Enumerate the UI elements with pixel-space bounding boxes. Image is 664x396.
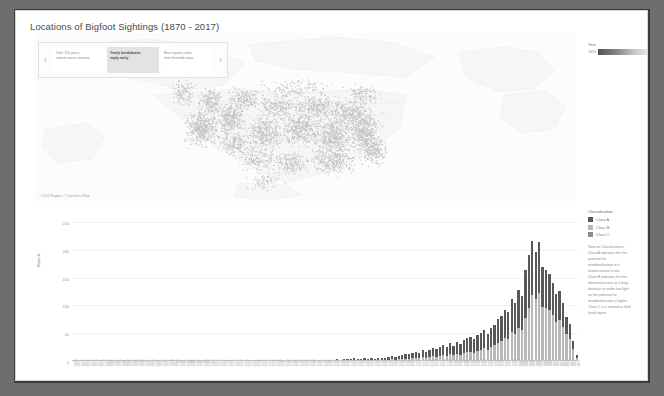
- y-tick-100: 100: [63, 304, 70, 309]
- legend-swatch-class-a: [588, 217, 593, 222]
- year-legend-title: Year: [588, 42, 648, 47]
- page-title: Locations of Bigfoot Sightings (1870 - 2…: [30, 21, 219, 32]
- year-legend-min: 1870: [588, 50, 596, 54]
- classification-note: Note on Classifications:Class A indicate…: [588, 244, 648, 316]
- y-tick-0: 0: [67, 360, 69, 365]
- story-points-navigator[interactable]: ‹ Over 150 years, reports seem common Ye…: [38, 42, 228, 78]
- map-attribution: © 2023 Mapbox © OpenStreetMap: [38, 194, 91, 198]
- dashboard-container: Locations of Bigfoot Sightings (1870 - 2…: [15, 10, 648, 381]
- story-next-button[interactable]: ›: [214, 55, 227, 65]
- legend-item-class-b[interactable]: Class B: [588, 225, 648, 230]
- reports-by-year-chart: Reports 050100150200250 1870187118721873…: [34, 207, 582, 379]
- legend-item-class-c[interactable]: Class C: [588, 232, 648, 237]
- y-tick-150: 150: [63, 276, 70, 281]
- chart-plot-area[interactable]: 050100150200250: [72, 211, 578, 361]
- legend-label-class-c: Class C: [596, 232, 610, 237]
- story-point-2-line2: imply rarity: [110, 56, 156, 61]
- legend-label-class-a: Class A: [596, 217, 609, 222]
- legend-swatch-class-b: [588, 225, 593, 230]
- classification-legend: Classification Class A Class B Class C: [588, 209, 648, 240]
- chart-y-axis-label: Reports: [36, 253, 41, 267]
- story-point-3[interactable]: Best reports come from forested areas: [161, 47, 213, 73]
- y-tick-200: 200: [63, 248, 70, 253]
- y-tick-250: 250: [63, 221, 70, 226]
- story-point-2[interactable]: Yearly breakdowns imply rarity: [107, 47, 159, 73]
- chart-bars[interactable]: [72, 211, 578, 361]
- story-point-1-line2: reports seem common: [56, 56, 102, 61]
- year-legend: Year 1870 2017: [588, 42, 648, 55]
- x-tick-label: 2017: [575, 363, 578, 381]
- note-line-12: hand report.: [588, 310, 648, 316]
- legend-swatch-class-c: [588, 232, 593, 237]
- year-color-ramp: [598, 49, 648, 55]
- screen-background: Locations of Bigfoot Sightings (1870 - 2…: [0, 0, 664, 396]
- bar-column[interactable]: [575, 211, 578, 361]
- chart-x-axis-labels: 1870187118721873187418751876187718781879…: [72, 363, 578, 381]
- classification-legend-title: Classification: [588, 209, 648, 214]
- legend-label-class-b: Class B: [596, 225, 609, 230]
- story-point-1[interactable]: Over 150 years, reports seem common: [53, 47, 105, 73]
- legend-item-class-a[interactable]: Class A: [588, 217, 648, 222]
- story-point-3-line2: from forested areas: [164, 56, 210, 61]
- year-legend-ramp-row[interactable]: 1870 2017: [588, 49, 648, 55]
- story-prev-button[interactable]: ‹: [39, 55, 52, 65]
- y-tick-50: 50: [65, 332, 69, 337]
